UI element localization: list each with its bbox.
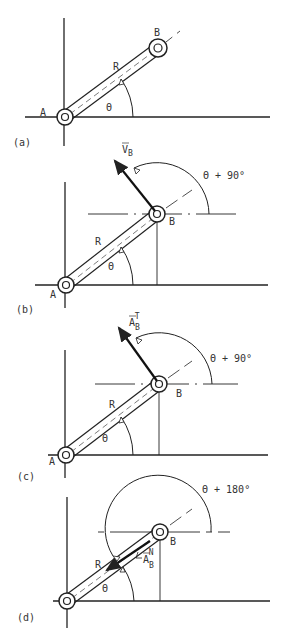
- label-a: A: [49, 456, 55, 467]
- panel-a: A B R Θ (a): [13, 18, 270, 148]
- panel-label-c: (c): [17, 471, 35, 482]
- direction-angle-label: Θ + 90°: [210, 353, 252, 364]
- direction-arc: [136, 333, 212, 384]
- label-b: B: [154, 27, 160, 38]
- joint-b: [152, 524, 168, 540]
- pivot-a: [58, 277, 74, 293]
- joint-b: [151, 376, 167, 392]
- direction-angle-label: Θ + 90°: [203, 170, 245, 181]
- theta-arc: [121, 247, 133, 285]
- panel-c: ABT Θ + 90° A B R Θ (c): [17, 312, 268, 482]
- direction-angle-label: Θ + 180°: [202, 484, 250, 495]
- vector-label: ABT: [129, 312, 140, 332]
- panel-label-d: (d): [17, 612, 35, 623]
- theta-arc: [121, 417, 133, 455]
- panel-label-b: (b): [16, 304, 34, 315]
- label-b: B: [169, 216, 175, 227]
- pivot-a: [59, 593, 75, 609]
- label-a: A: [50, 289, 56, 300]
- panel-label-a: (a): [13, 137, 31, 148]
- label-theta: Θ: [106, 102, 112, 113]
- arrowhead-icon: [134, 168, 140, 174]
- pivot-a: [58, 447, 74, 463]
- kinematics-diagram: A B R Θ (a) VB Θ +: [0, 0, 284, 642]
- joint-b: [149, 39, 167, 57]
- theta-arc: [121, 79, 133, 117]
- label-b: B: [170, 536, 176, 547]
- label-b: B: [176, 388, 182, 399]
- label-theta: Θ: [102, 583, 108, 594]
- link-ab: [62, 190, 192, 290]
- pivot-a: [57, 109, 73, 125]
- panel-d: ABN Θ + 180° B R Θ (d): [17, 475, 270, 628]
- arrowhead-icon: [136, 338, 142, 344]
- label-a: A: [40, 107, 46, 118]
- direction-arc: [105, 475, 211, 556]
- label-r: R: [113, 61, 120, 72]
- direction-arc: [134, 163, 209, 214]
- arrowhead-icon: [119, 79, 124, 85]
- label-theta: Θ: [108, 261, 114, 272]
- label-theta: Θ: [102, 433, 108, 444]
- label-r: R: [95, 559, 102, 570]
- vector-label: VB: [122, 144, 133, 158]
- label-r: R: [95, 236, 102, 247]
- label-r: R: [109, 399, 116, 410]
- tangential-acceleration-arrow: [119, 328, 157, 381]
- panel-b: VB Θ + 90° A B R Θ (b): [16, 143, 268, 315]
- joint-b: [149, 206, 165, 222]
- link-ab: [62, 361, 192, 460]
